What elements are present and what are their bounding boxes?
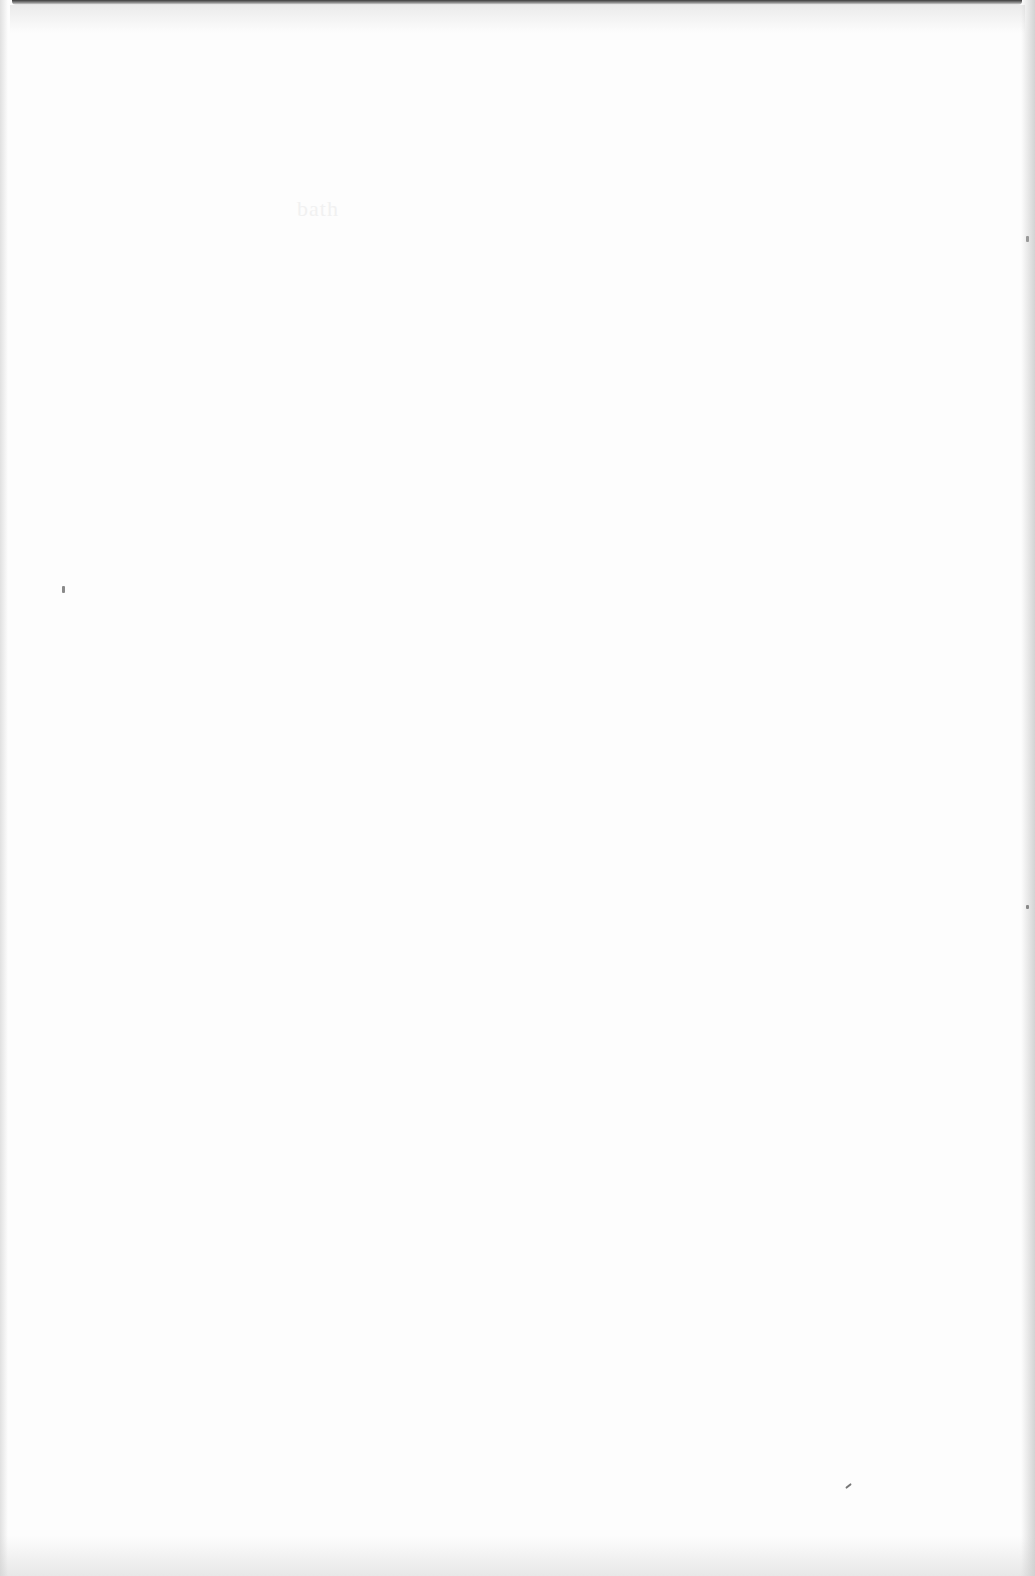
scan-speck-mark (62, 586, 65, 593)
page-left-edge-shadow (0, 0, 8, 1576)
scan-speck-mark (1026, 905, 1029, 909)
blank-page: bath (0, 0, 1035, 1576)
faint-bleed-through-text: bath (297, 196, 339, 222)
page-bottom-edge-shadow (0, 1536, 1035, 1576)
scan-speck-mark (845, 1483, 852, 1489)
page-top-bleed-band (10, 5, 1025, 33)
scan-speck-mark (1026, 236, 1029, 242)
